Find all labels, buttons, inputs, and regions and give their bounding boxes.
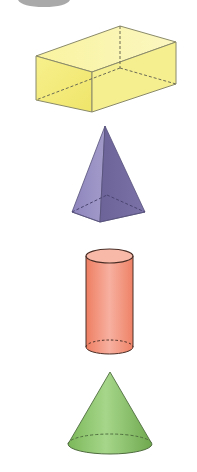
rectangular-prism xyxy=(36,26,176,112)
partial-shape-fragment xyxy=(18,0,70,7)
square-pyramid xyxy=(72,126,145,222)
cone xyxy=(68,372,152,454)
geometric-solids-figure xyxy=(0,0,197,472)
cylinder xyxy=(86,249,133,354)
